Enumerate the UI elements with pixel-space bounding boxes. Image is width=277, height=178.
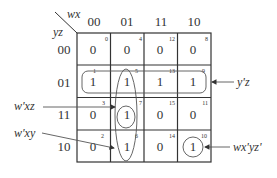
label-single: wx'yz': [233, 140, 262, 154]
row-header-11: 11: [58, 107, 71, 122]
cell-value: 1: [190, 139, 197, 154]
row-header-01: 01: [58, 75, 71, 90]
row-header-00: 00: [58, 42, 71, 57]
minterm-index: 10: [201, 133, 207, 139]
cell-value: 0: [157, 139, 164, 154]
cell-value: 1: [190, 74, 197, 89]
minterm-index: 7: [139, 100, 142, 106]
cell-value: 0: [157, 107, 164, 122]
minterm-index: 8: [205, 36, 208, 42]
karnaugh-map: wx yz 00 01 11 10 00 01 11 10 0 0 0 0 1 …: [0, 0, 277, 178]
cell-value: 1: [124, 74, 131, 89]
minterm-index: 14: [169, 133, 175, 139]
col-header-01: 01: [121, 14, 134, 29]
minterm-index: 3: [102, 100, 105, 106]
col-header-00: 00: [88, 14, 101, 29]
cell-value: 0: [124, 42, 131, 57]
cell-value: 0: [90, 139, 97, 154]
row-var-label: yz: [52, 25, 63, 39]
col-header-11: 11: [155, 14, 168, 29]
cell-value: 0: [190, 42, 197, 57]
label-wxz: w'xz: [14, 99, 35, 113]
cell-value: 1: [124, 107, 131, 122]
cell-value: 0: [190, 107, 197, 122]
minterm-index: 15: [169, 100, 175, 106]
minterm-index: 4: [139, 36, 142, 42]
cell-value: 1: [124, 139, 131, 154]
minterm-index: 12: [169, 36, 175, 42]
row-header-10: 10: [58, 139, 71, 154]
minterm-index: 0: [105, 36, 108, 42]
col-var-label: wx: [67, 7, 81, 21]
cell-value: 1: [90, 74, 97, 89]
label-yz: y'z: [236, 75, 250, 89]
minterm-index: 2: [101, 133, 104, 139]
minterm-index: 11: [202, 100, 208, 106]
cell-value: 1: [157, 74, 164, 89]
cell-value: 0: [157, 42, 164, 57]
col-header-10: 10: [188, 14, 201, 29]
cell-value: 0: [90, 42, 97, 57]
label-wxy: w'xy: [14, 126, 36, 140]
cell-value: 0: [90, 107, 97, 122]
